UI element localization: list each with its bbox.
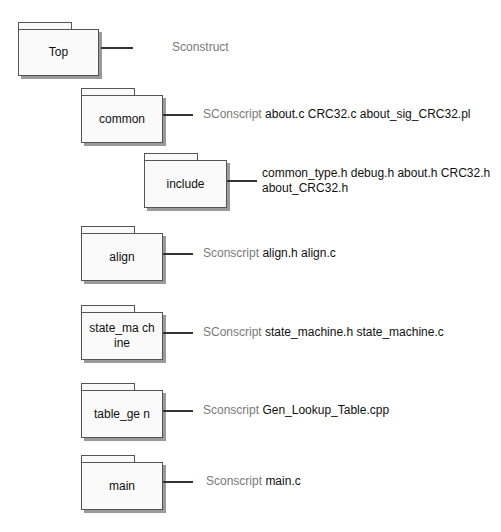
script-name: SConscript [203, 325, 262, 339]
connector-line [101, 47, 133, 49]
connector-line [163, 332, 193, 334]
folder-label: state_ma chine [81, 312, 163, 360]
file-list: about.c CRC32.c about_sig_CRC32.pl [265, 107, 470, 121]
connector-line [163, 253, 193, 255]
folder-include: include [144, 153, 227, 208]
folder-main: main [81, 455, 163, 510]
folder-label: main [81, 462, 163, 510]
script-name: Sconscript [203, 246, 259, 260]
node-description: Sconscript main.c [206, 474, 301, 489]
folder-label: Top [18, 29, 99, 76]
file-list: Gen_Lookup_Table.cpp [262, 403, 389, 417]
folder-common: common [81, 88, 163, 143]
connector-line [163, 410, 193, 412]
script-name: Sconstruct [172, 40, 229, 54]
node-description: Sconstruct [172, 40, 229, 55]
file-list: state_machine.h state_machine.c [265, 325, 444, 339]
script-name: SConscript [203, 107, 262, 121]
script-name: Sconscript [203, 403, 259, 417]
folder-label: common [81, 95, 163, 143]
folder-state-machine: state_ma chine [81, 305, 163, 360]
node-description: SConscript state_machine.h state_machine… [203, 325, 444, 340]
node-description: SConscript about.c CRC32.c about_sig_CRC… [203, 107, 470, 122]
file-list-line-2: about_CRC32.h [262, 181, 490, 196]
folder-label: table_ge n [81, 390, 163, 438]
node-description: Sconscript Gen_Lookup_Table.cpp [203, 403, 389, 418]
node-description: Sconscript align.h align.c [203, 246, 336, 261]
folder-label: include [144, 160, 227, 208]
connector-line [163, 481, 193, 483]
script-name: Sconscript [206, 474, 262, 488]
folder-top: Top [18, 22, 99, 76]
file-list-line-1: common_type.h debug.h about.h CRC32.h [262, 166, 490, 181]
node-description: common_type.h debug.h about.h CRC32.h ab… [262, 166, 490, 196]
file-list: main.c [265, 474, 300, 488]
connector-line [227, 180, 257, 182]
connector-line [163, 114, 193, 116]
folder-label: align [81, 233, 163, 281]
folder-table-gen: table_ge n [81, 383, 163, 438]
folder-align: align [81, 226, 163, 281]
file-list: align.h align.c [262, 246, 335, 260]
